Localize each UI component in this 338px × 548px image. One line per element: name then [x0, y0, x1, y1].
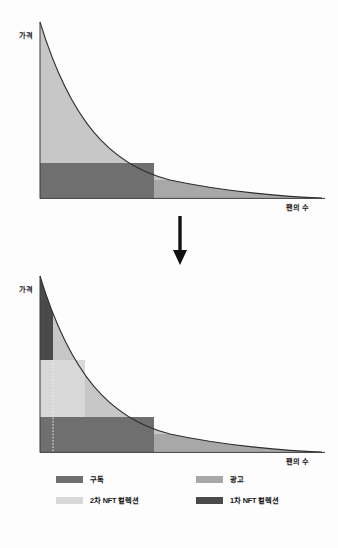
chart-bottom-svg — [0, 258, 338, 468]
legend-item-advertising: 광고 — [196, 476, 244, 483]
legend-swatch-subscription — [56, 476, 83, 483]
chart-bottom: 가격 팬의 수 — [0, 258, 338, 468]
legend-label-advertising: 광고 — [230, 476, 244, 483]
legend-swatch-advertising — [196, 476, 223, 483]
legend-item-nft-secondary: 2차 NFT 컬렉션 — [56, 497, 139, 504]
region-subscription-top — [40, 163, 154, 198]
x-axis-label-top: 팬의 수 — [286, 202, 309, 212]
legend-item-subscription: 구독 — [56, 476, 104, 483]
legend-swatch-nft-primary — [196, 497, 223, 504]
legend-item-nft-primary: 1차 NFT 컬렉션 — [196, 497, 279, 504]
region-nft-secondary — [40, 360, 85, 417]
legend: 구독 광고 2차 NFT 컬렉션 1차 NFT 컬렉션 — [0, 474, 338, 524]
region-nft-primary — [40, 276, 53, 360]
region-subscription-bottom — [40, 417, 154, 452]
chart-top: 가격 팬의 수 — [0, 0, 338, 215]
legend-label-nft-secondary: 2차 NFT 컬렉션 — [90, 497, 139, 504]
legend-swatch-nft-secondary — [56, 497, 83, 504]
y-axis-label-top: 가격 — [19, 30, 33, 40]
x-axis-label-bottom: 팬의 수 — [286, 456, 309, 466]
y-axis-label-bottom: 가격 — [19, 284, 33, 294]
chart-top-svg — [0, 0, 338, 215]
diagram-page: 가격 팬의 수 — [0, 0, 338, 548]
legend-label-nft-primary: 1차 NFT 컬렉션 — [230, 497, 279, 504]
legend-label-subscription: 구독 — [90, 476, 104, 483]
